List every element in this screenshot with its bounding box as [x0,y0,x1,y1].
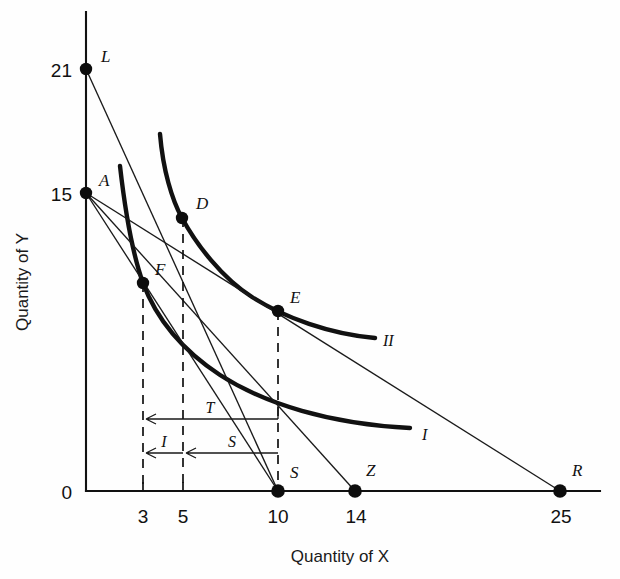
budget-line-AZ [86,193,355,491]
point-label-Z: Z [366,461,376,480]
point-dot-F [137,277,149,289]
x-tick-label-10: 10 [267,506,288,527]
arrow-label-total-effect: T [206,399,216,416]
x-tick-marks [143,482,183,491]
curve-label-I: I [421,426,428,443]
x-tick-label-3: 3 [138,506,149,527]
point-label-R: R [571,461,583,480]
point-label-E: E [289,288,301,307]
point-label-S: S [290,463,299,482]
chart-svg: L A D F E S Z R I II T I S 21 15 0 3 [0,0,620,579]
point-labels-group: L A D F E S Z R [98,47,583,482]
point-dot-L [80,63,92,75]
x-axis-title: Quantity of X [291,547,389,566]
point-dot-E [272,305,284,317]
arrow-label-substitution-effect: S [228,433,236,450]
x-tick-label-14: 14 [345,506,367,527]
budget-line-AS [86,193,278,491]
point-label-L: L [100,47,110,66]
budget-lines-group [86,69,560,491]
point-dot-S [271,484,285,498]
arrow-label-income-effect: I [160,433,167,450]
chart-figure: L A D F E S Z R I II T I S 21 15 0 3 [0,0,620,579]
indifference-curve-I [120,166,410,428]
point-dot-D [176,212,188,224]
data-points-group [80,63,567,498]
point-dot-Z [348,484,362,498]
point-label-D: D [195,194,209,213]
y-tick-label-0: 0 [61,482,72,503]
y-tick-labels-group: 21 15 0 [51,60,72,503]
y-tick-label-21: 21 [51,60,72,81]
x-tick-labels-group: 3 5 10 14 25 [138,506,572,527]
y-tick-label-15: 15 [51,184,72,205]
effect-arrow-labels-group: T I S [160,399,236,450]
point-dot-A [80,187,92,199]
point-label-F: F [154,260,166,279]
budget-line-AR [86,193,560,491]
budget-line-LS [86,69,278,491]
y-axis-title: Quantity of Y [13,233,32,331]
point-dot-R [553,484,567,498]
point-label-A: A [98,171,110,190]
curve-label-II: II [382,332,394,349]
x-tick-label-5: 5 [178,506,189,527]
x-tick-label-25: 25 [550,506,571,527]
